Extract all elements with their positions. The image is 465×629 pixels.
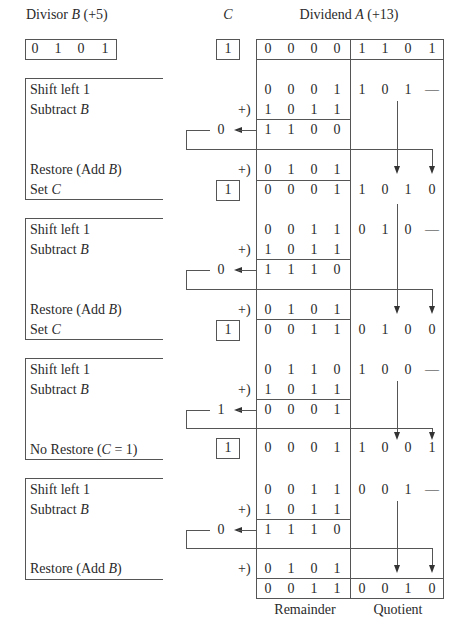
shift-bit: 0 (284, 82, 298, 98)
dividend-var: A (355, 7, 364, 22)
quotient-arrow-icon (429, 166, 435, 174)
restore-text: Restore (Add (30, 561, 109, 576)
result-bit: 0 (307, 402, 321, 418)
neg-b-bit: 1 (307, 102, 321, 118)
shift-bit: 0 (401, 222, 415, 238)
final-bit: 0 (284, 440, 298, 456)
setc-label: Set C (30, 182, 61, 198)
shift-bit: 1 (401, 482, 415, 498)
loop-line-top (186, 530, 210, 531)
dividend-bit: 0 (401, 41, 415, 57)
restore-bit: 0 (307, 162, 321, 178)
no-restore-var: C (102, 442, 111, 457)
carry-bit: 0 (214, 122, 228, 138)
plus-sign: +) (238, 382, 251, 398)
loop-line-down (432, 149, 433, 166)
loop-line-bottom (186, 428, 432, 429)
shift-bit: 1 (330, 222, 344, 238)
restore-label: Restore (Add B) (30, 162, 122, 178)
final-bit: 0 (307, 182, 321, 198)
c-bit: 1 (221, 182, 235, 198)
no-restore-suffix: = 1) (111, 442, 138, 457)
shift-label: Shift left 1 (30, 82, 90, 98)
loop-line-left (186, 130, 187, 149)
shift-bit: 0 (261, 222, 275, 238)
shift-down-line (397, 501, 398, 565)
restore-bit: 1 (284, 162, 298, 178)
setc-text: Set (30, 182, 51, 197)
carry-bit: 0 (214, 522, 228, 538)
shift-bit: 0 (355, 482, 369, 498)
restore-bit: 0 (307, 561, 321, 577)
remainder-quotient-divider (350, 39, 351, 599)
loop-line-left (186, 270, 187, 289)
restore-suffix: ) (117, 561, 122, 576)
setc-text: Set (30, 322, 51, 337)
shift-bit: 1 (330, 482, 344, 498)
restore-bit: 1 (284, 302, 298, 318)
neg-b-bit: 1 (261, 382, 275, 398)
step-bracket-bottom (25, 579, 163, 580)
final-bit: 1 (425, 440, 439, 456)
result-bit: 0 (330, 522, 344, 538)
final-bit: 0 (355, 581, 369, 597)
sum-line (256, 319, 350, 320)
dividend-label-suffix: (+13) (364, 7, 399, 22)
carry-arrow-line (238, 270, 256, 271)
step-bracket-bottom (25, 339, 163, 340)
setc-var: C (51, 322, 60, 337)
neg-b-bit: 0 (284, 102, 298, 118)
step-bracket-left (25, 218, 26, 340)
shift-bit: 0 (261, 362, 275, 378)
final-bit: 1 (330, 322, 344, 338)
shift-bit: 1 (307, 482, 321, 498)
restore-label: Restore (Add B) (30, 302, 122, 318)
divisor-label-prefix: Divisor (26, 7, 72, 22)
loop-line-left (186, 410, 187, 428)
neg-b-bit: 0 (284, 382, 298, 398)
subtract-text: Subtract (30, 102, 80, 117)
subtract-var: B (80, 102, 89, 117)
shift-bit: 1 (378, 222, 392, 238)
neg-b-bit: 1 (330, 102, 344, 118)
shift-bit: 1 (355, 82, 369, 98)
shift-label: Shift left 1 (30, 362, 90, 378)
dividend-bit: 0 (261, 41, 275, 57)
dividend-label-prefix: Dividend (300, 7, 356, 22)
final-bit: 0 (261, 440, 275, 456)
final-bit: 0 (284, 581, 298, 597)
result-bit: 0 (307, 122, 321, 138)
final-bit: 0 (401, 440, 415, 456)
final-bit: 0 (284, 182, 298, 198)
shift-bit: 0 (401, 362, 415, 378)
result-bit: 1 (261, 262, 275, 278)
empty-bit-dash: — (425, 82, 439, 98)
plus-sign: +) (238, 502, 251, 518)
step-bracket-top (25, 478, 163, 479)
final-bit: 0 (284, 322, 298, 338)
carry-bit: 0 (214, 262, 228, 278)
final-bit: 1 (307, 322, 321, 338)
restore-var: B (109, 302, 118, 317)
result-bit: 0 (261, 402, 275, 418)
restore-bit: 0 (261, 561, 275, 577)
step-bracket-bottom (25, 199, 163, 200)
shift-arrow-icon (394, 166, 400, 174)
shift-bit: 0 (261, 82, 275, 98)
loop-line-bottom (186, 289, 432, 290)
final-bit: 1 (401, 182, 415, 198)
dividend-bit: 1 (378, 41, 392, 57)
shift-label: Shift left 1 (30, 482, 90, 498)
result-bit: 1 (330, 402, 344, 418)
subtract-label: Subtract B (30, 382, 89, 398)
final-bit: 0 (378, 581, 392, 597)
final-bit: 0 (401, 322, 415, 338)
quotient-arrow-icon (429, 565, 435, 573)
loop-line-top (186, 410, 210, 411)
sum-line (256, 119, 350, 120)
final-bit: 1 (330, 440, 344, 456)
final-bit: 0 (261, 322, 275, 338)
neg-b-bit: 1 (330, 382, 344, 398)
carry-arrow-line (238, 130, 256, 131)
quotient-arrow-icon (429, 306, 435, 314)
